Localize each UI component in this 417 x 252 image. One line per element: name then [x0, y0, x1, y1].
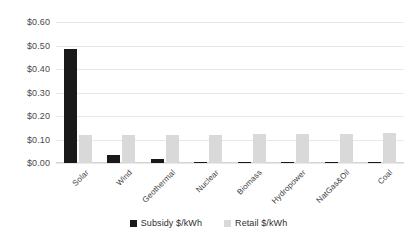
bar-group	[56, 22, 100, 163]
legend-entry: Retail $/kWh	[224, 218, 287, 228]
bar-retail	[340, 134, 353, 163]
legend-swatch-icon	[224, 220, 231, 227]
bar-group	[361, 22, 405, 163]
bar-group	[143, 22, 187, 163]
y-axis-tick-label: $0.20	[27, 111, 50, 121]
bar-subsidy	[325, 162, 338, 163]
bar-retail	[166, 135, 179, 163]
bar-chart: $0.00$0.10$0.20$0.30$0.40$0.50$0.60 Sola…	[0, 0, 417, 252]
y-axis-tick-label: $0.40	[27, 64, 50, 74]
bar-retail	[253, 134, 266, 163]
legend-label: Subsidy $/kWh	[141, 218, 202, 228]
y-axis-tick-label: $0.30	[27, 88, 50, 98]
x-axis-tick: Geothermal	[143, 164, 187, 210]
bar-retail	[122, 135, 135, 163]
x-axis-tick: Solar	[56, 164, 100, 210]
y-axis-tick-label: $0.10	[27, 135, 50, 145]
x-axis-tick: Coal	[361, 164, 405, 210]
bar-subsidy	[64, 49, 77, 163]
legend-entry: Subsidy $/kWh	[130, 218, 202, 228]
bar-group	[317, 22, 361, 163]
bar-retail	[209, 135, 222, 163]
bar-retail	[383, 133, 396, 163]
x-axis-tick: Hydropower	[274, 164, 318, 210]
x-axis-tick-label: Geothermal	[140, 168, 177, 205]
bar-subsidy	[368, 162, 381, 163]
bar-group	[274, 22, 318, 163]
y-axis-tick-label: $0.60	[27, 17, 50, 27]
x-axis-tick-label: Biomass	[236, 168, 265, 197]
x-axis-tick-label: Solar	[70, 168, 90, 188]
bar-subsidy	[107, 155, 120, 163]
x-axis-tick: Wind	[100, 164, 144, 210]
chart-legend: Subsidy $/kWhRetail $/kWh	[0, 218, 417, 228]
bar-subsidy	[151, 159, 164, 163]
bar-group	[100, 22, 144, 163]
x-axis-tick-label: Coal	[376, 168, 394, 186]
x-axis-tick: Biomass	[230, 164, 274, 210]
bar-subsidy	[281, 162, 294, 163]
x-axis-tick-label: Hydropower	[270, 168, 308, 206]
bar-group	[230, 22, 274, 163]
x-axis-labels: SolarWindGeothermalNuclearBiomassHydropo…	[56, 164, 404, 210]
x-axis-tick: Nuclear	[187, 164, 231, 210]
plot-area: $0.00$0.10$0.20$0.30$0.40$0.50$0.60	[56, 22, 404, 163]
legend-label: Retail $/kWh	[235, 218, 287, 228]
legend-swatch-icon	[130, 220, 137, 227]
bar-retail	[79, 135, 92, 163]
y-axis-tick-label: $0.00	[27, 158, 50, 168]
bar-group	[187, 22, 231, 163]
x-axis-tick-label: Wind	[114, 168, 134, 188]
x-axis-tick-label: Nuclear	[194, 168, 220, 194]
y-axis-tick-label: $0.50	[27, 41, 50, 51]
bar-groups	[56, 22, 404, 163]
bar-retail	[296, 134, 309, 163]
bar-subsidy	[194, 162, 207, 163]
x-axis-tick-label: NatGas&Oil	[314, 168, 351, 205]
x-axis-tick: NatGas&Oil	[317, 164, 361, 210]
bar-subsidy	[238, 162, 251, 163]
